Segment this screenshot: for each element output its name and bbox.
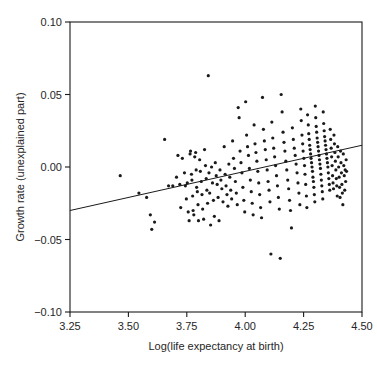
data-point <box>301 142 304 145</box>
data-point <box>247 154 250 157</box>
data-point <box>304 183 307 186</box>
data-point <box>344 180 347 183</box>
data-point <box>228 176 231 179</box>
data-point <box>325 157 328 160</box>
data-point <box>332 187 335 190</box>
data-point <box>254 151 257 154</box>
data-point <box>181 157 184 160</box>
data-point <box>305 194 308 197</box>
data-point <box>179 206 182 209</box>
data-point <box>290 226 293 229</box>
data-point <box>119 174 122 177</box>
data-point <box>195 168 198 171</box>
data-point <box>248 167 251 170</box>
data-point <box>313 193 316 196</box>
data-point <box>312 180 315 183</box>
y-axis-tick-label: −0.10 <box>34 306 62 318</box>
data-point <box>316 136 319 139</box>
data-point <box>303 173 306 176</box>
data-point <box>333 142 336 145</box>
data-point <box>331 164 334 167</box>
data-point <box>220 187 223 190</box>
x-axis-title: Log(life expectancy at birth) <box>148 340 283 352</box>
data-point <box>188 152 191 155</box>
data-point <box>244 100 247 103</box>
data-point <box>163 138 166 141</box>
data-point <box>224 184 227 187</box>
data-point <box>215 174 218 177</box>
data-point <box>318 158 321 161</box>
data-point <box>270 120 273 123</box>
data-point <box>175 176 178 179</box>
data-point <box>192 209 195 212</box>
y-axis-tick-label: 0.05 <box>41 89 62 101</box>
data-point <box>266 180 269 183</box>
data-point <box>310 165 313 168</box>
data-point <box>341 192 344 195</box>
data-point <box>238 116 241 119</box>
data-point <box>331 181 334 184</box>
data-point <box>317 149 320 152</box>
data-point <box>289 209 292 212</box>
data-point <box>315 131 318 134</box>
data-point <box>221 200 224 203</box>
data-point <box>271 136 274 139</box>
data-point <box>314 105 317 108</box>
data-point <box>261 96 264 99</box>
data-point <box>280 93 283 96</box>
data-point <box>331 174 334 177</box>
data-point <box>332 134 335 137</box>
data-point <box>277 196 280 199</box>
data-point <box>308 144 311 147</box>
data-point <box>191 194 194 197</box>
y-axis-tick-label: 0.10 <box>41 16 62 28</box>
data-point <box>258 193 261 196</box>
data-point <box>231 139 234 142</box>
x-axis-tick-label: 3.75 <box>176 320 197 332</box>
data-point <box>324 148 327 151</box>
chart-canvas: −0.10−0.050.000.050.103.253.503.754.004.… <box>0 0 377 365</box>
data-point <box>330 147 333 150</box>
data-point <box>308 138 311 141</box>
data-point <box>229 189 232 192</box>
data-point <box>204 164 207 167</box>
data-point <box>150 228 153 231</box>
data-point <box>300 119 303 122</box>
x-axis-tick-label: 3.25 <box>59 320 80 332</box>
data-point <box>237 106 240 109</box>
data-point <box>298 203 301 206</box>
data-point <box>316 141 319 144</box>
data-point <box>313 200 316 203</box>
data-point <box>264 148 267 151</box>
data-point <box>336 145 339 148</box>
data-point <box>283 149 286 152</box>
data-point <box>230 197 233 200</box>
data-point <box>207 171 210 174</box>
data-point <box>212 199 215 202</box>
data-point <box>285 168 288 171</box>
data-point <box>278 207 281 210</box>
data-point <box>286 178 289 181</box>
y-axis-tick-label: −0.05 <box>34 234 62 246</box>
data-point <box>334 160 337 163</box>
data-point <box>338 186 341 189</box>
data-point <box>167 184 170 187</box>
data-point <box>202 218 205 221</box>
data-point <box>187 210 190 213</box>
data-point <box>210 165 213 168</box>
data-point <box>307 123 310 126</box>
data-point <box>306 113 309 116</box>
data-point <box>281 131 284 134</box>
data-point <box>200 193 203 196</box>
data-point <box>262 128 265 131</box>
data-point <box>276 184 279 187</box>
data-point <box>252 213 255 216</box>
data-point <box>252 123 255 126</box>
data-point <box>268 200 271 203</box>
data-point <box>322 110 325 113</box>
data-point <box>334 168 337 171</box>
x-axis-tick-label: 4.25 <box>293 320 314 332</box>
data-point <box>299 107 302 110</box>
data-point <box>214 161 217 164</box>
data-point <box>242 199 245 202</box>
